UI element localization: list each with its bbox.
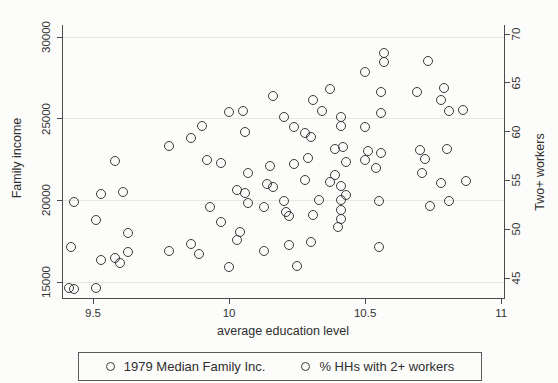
data-point: [197, 121, 207, 131]
data-point: [194, 249, 204, 259]
data-point: [371, 163, 381, 173]
data-point: [300, 175, 310, 185]
data-point: [268, 182, 278, 192]
data-point: [423, 56, 433, 66]
legend-label-income: 1979 Median Family Inc.: [124, 359, 266, 374]
data-point: [292, 261, 302, 271]
data-point: [442, 144, 452, 154]
left-y-axis-title: Family income: [10, 118, 24, 199]
data-point: [205, 202, 215, 212]
data-point: [91, 215, 101, 225]
data-point: [289, 159, 299, 169]
left-tick-label: 25000: [40, 103, 52, 135]
data-point: [202, 155, 212, 165]
data-point: [224, 107, 234, 117]
data-point: [461, 176, 471, 186]
x-tick-label: 11: [495, 307, 507, 319]
data-point: [308, 210, 318, 220]
scatter-figure: 150002000025000300004550556065709.51010.…: [0, 0, 558, 383]
left-y-axis-line: [62, 25, 63, 299]
x-tick-label: 10: [223, 307, 236, 319]
data-point: [308, 95, 318, 105]
data-point: [379, 57, 389, 67]
legend-label-workers: % HHs with 2+ workers: [319, 359, 454, 374]
data-point: [325, 84, 335, 94]
data-point: [420, 154, 430, 164]
left-tick-label: 20000: [40, 184, 52, 216]
data-point: [186, 133, 196, 143]
data-point: [436, 95, 446, 105]
data-point: [243, 198, 253, 208]
data-point: [123, 247, 133, 257]
hollow-circle-icon: [301, 362, 310, 371]
data-point: [458, 105, 468, 115]
right-tick-label: 55: [510, 174, 522, 187]
right-tick-label: 50: [510, 223, 522, 236]
data-point: [289, 122, 299, 132]
data-point: [444, 106, 454, 116]
left-tick: [57, 200, 62, 201]
data-point: [91, 283, 101, 293]
data-point: [436, 178, 446, 188]
data-point: [376, 108, 386, 118]
data-point: [265, 161, 275, 171]
legend: 1979 Median Family Inc. % HHs with 2+ wo…: [78, 352, 482, 381]
data-point: [96, 189, 106, 199]
right-y-axis-line: [504, 25, 505, 299]
data-point: [259, 202, 269, 212]
data-point: [444, 196, 454, 206]
right-tick-label: 45: [510, 272, 522, 285]
data-point: [123, 228, 133, 238]
data-point: [338, 142, 348, 152]
data-point: [360, 122, 370, 132]
left-tick-label: 15000: [40, 266, 52, 298]
legend-item-workers: % HHs with 2+ workers: [301, 359, 454, 374]
x-tick-label: 10.5: [354, 307, 376, 319]
data-point: [425, 201, 435, 211]
data-point: [317, 106, 327, 116]
x-tick: [365, 299, 366, 304]
data-point: [216, 217, 226, 227]
data-point: [164, 141, 174, 151]
data-point: [341, 157, 351, 167]
hollow-circle-icon: [106, 362, 115, 371]
data-point: [314, 195, 324, 205]
right-tick-label: 60: [510, 125, 522, 138]
data-point: [243, 168, 253, 178]
data-point: [330, 170, 340, 180]
data-point: [376, 148, 386, 158]
data-point: [66, 242, 76, 252]
data-point: [110, 156, 120, 166]
x-tick: [501, 299, 502, 304]
left-tick-label: 30000: [40, 21, 52, 53]
plot-area: [62, 25, 505, 299]
data-point: [303, 153, 313, 163]
data-point: [374, 196, 384, 206]
data-point: [216, 158, 226, 168]
right-tick-label: 65: [510, 76, 522, 89]
data-point: [224, 262, 234, 272]
data-point: [279, 196, 289, 206]
data-point: [415, 145, 425, 155]
data-point: [279, 112, 289, 122]
data-point: [439, 83, 449, 93]
left-tick: [57, 37, 62, 38]
data-point: [360, 155, 370, 165]
data-point: [336, 195, 346, 205]
data-point: [376, 87, 386, 97]
data-point: [69, 197, 79, 207]
data-point: [232, 235, 242, 245]
left-tick: [57, 282, 62, 283]
data-point: [259, 246, 269, 256]
data-point: [333, 222, 343, 232]
data-point: [268, 91, 278, 101]
data-point: [417, 168, 427, 178]
data-point: [300, 128, 310, 138]
data-point: [336, 205, 346, 215]
x-tick: [229, 299, 230, 304]
data-point: [306, 237, 316, 247]
data-point: [238, 106, 248, 116]
data-point: [118, 187, 128, 197]
x-axis-title: average education level: [217, 324, 349, 338]
legend-item-income: 1979 Median Family Inc.: [106, 359, 266, 374]
